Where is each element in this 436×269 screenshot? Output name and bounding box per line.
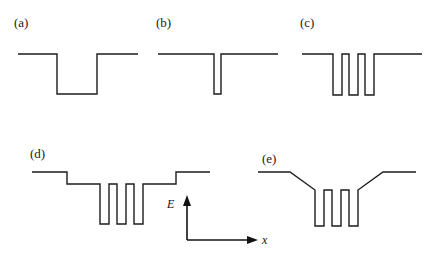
position-axis-label: x bbox=[262, 234, 267, 246]
figure-canvas bbox=[0, 0, 436, 269]
potential-curve-c bbox=[302, 54, 422, 95]
position-axis-arrowhead bbox=[247, 236, 258, 244]
panel-label-e: (e) bbox=[262, 152, 276, 165]
panel-label-b: (b) bbox=[156, 16, 171, 29]
panel-label-c: (c) bbox=[300, 16, 314, 29]
potential-curve-e bbox=[258, 172, 416, 226]
axes-group bbox=[183, 195, 258, 244]
potential-curve-d bbox=[32, 172, 210, 224]
energy-axis-arrowhead bbox=[183, 195, 191, 206]
panel-label-d: (d) bbox=[30, 147, 45, 160]
energy-axis-label: E bbox=[167, 198, 174, 210]
potential-curve-a bbox=[18, 54, 138, 94]
panel-label-a: (a) bbox=[14, 16, 28, 29]
potential-well-figure: (a) (b) (c) (d) (e) E x bbox=[0, 0, 436, 269]
potential-curve-b bbox=[158, 54, 278, 94]
